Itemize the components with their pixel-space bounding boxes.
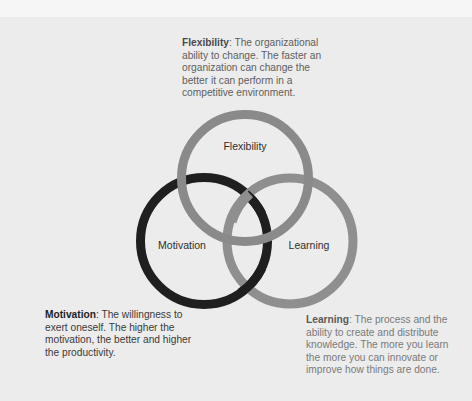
flexibility-label: Flexibility xyxy=(223,140,267,152)
motivation-term: Motivation xyxy=(45,309,96,320)
learning-description: Learning: The process and the ability to… xyxy=(306,314,456,377)
learning-label: Learning xyxy=(289,239,330,251)
motivation-label: Motivation xyxy=(158,239,206,251)
motivation-description: Motivation: The willingness to exert one… xyxy=(45,309,205,359)
learning-term: Learning xyxy=(306,314,349,325)
learning-arc-overlay xyxy=(232,194,250,222)
